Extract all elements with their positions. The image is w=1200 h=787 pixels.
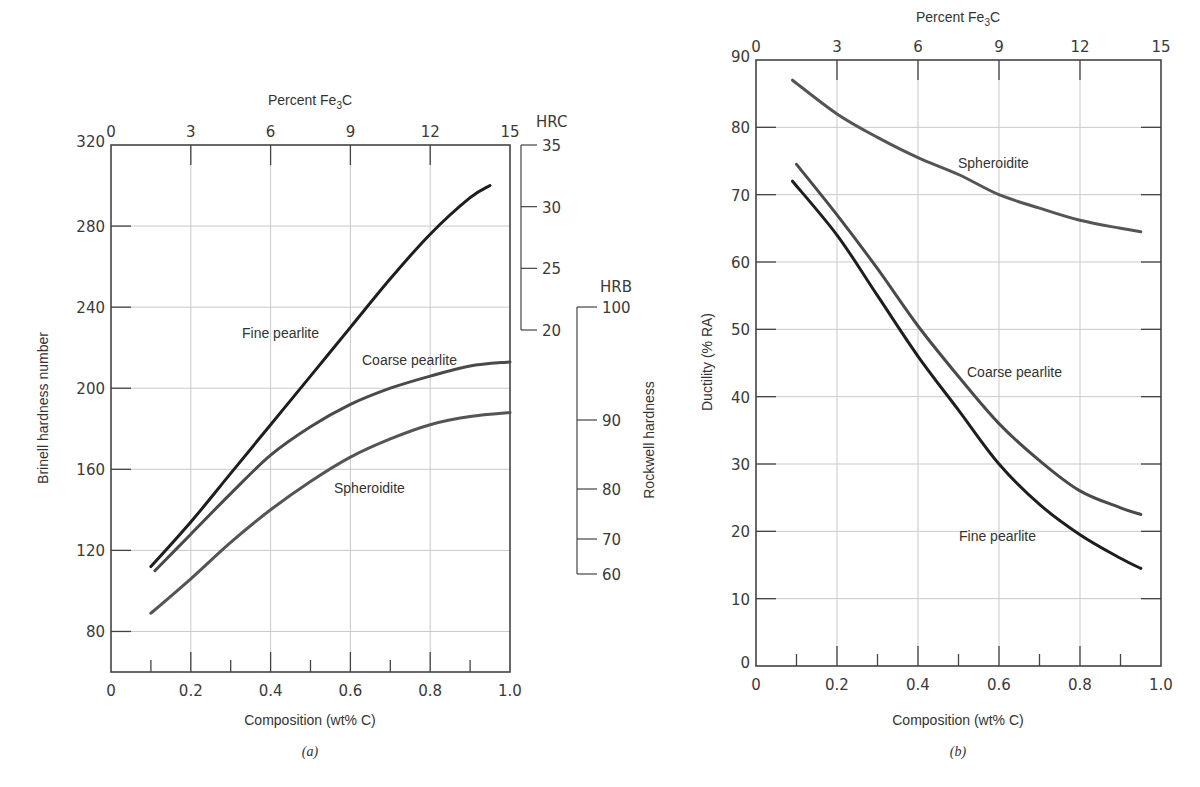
chart-a-top-axis-title: Percent Fe3C [268, 92, 352, 111]
hrb-axis: 10090807060 HRB Rockwell hardness [577, 278, 657, 584]
x-tick-label: 0 [106, 682, 116, 700]
top-tick-label: 3 [186, 123, 196, 141]
hrb-axis-label: HRB [600, 278, 632, 296]
y-tick-label: 20 [731, 523, 750, 541]
chart-b-label-fine-pearlite: Fine pearlite [959, 528, 1036, 544]
hrb-tick-label: 60 [602, 566, 621, 584]
top-tick-label: 9 [346, 123, 356, 141]
hrb-tick-label: 70 [602, 531, 621, 549]
chart-a-label-coarse-pearlite: Coarse pearlite [362, 352, 457, 368]
chart-b-top-axis-title: Percent Fe3C [916, 9, 1000, 28]
figure: 80120160200240280320 00.20.40.60.81.0 03… [0, 0, 1200, 787]
x-tick-label: 1.0 [498, 682, 522, 700]
y-tick-label: 120 [76, 542, 105, 560]
y-tick-label: 80 [86, 623, 105, 641]
chart-b-y-axis-title: Ductility (% RA) [699, 313, 715, 411]
top-tick-label: 0 [106, 123, 116, 141]
chart-a-label-fine-pearlite: Fine pearlite [242, 325, 319, 341]
chart-a-series [151, 186, 510, 614]
hrb-tick-label: 90 [602, 412, 621, 430]
x-tick-label: 0.6 [987, 676, 1011, 694]
chart-b-x-axis-title: Composition (wt% C) [892, 712, 1023, 728]
top-tick-label: 9 [994, 38, 1004, 56]
chart-a-plot-frame [111, 145, 510, 672]
x-tick-label: 0.4 [906, 676, 930, 694]
chart-a-top-tick-labels: 03691215 [106, 123, 519, 141]
y-tick-label: 60 [731, 254, 750, 272]
x-tick-label: 0.6 [338, 682, 362, 700]
y-tick-label: 70 [731, 187, 750, 205]
top-tick-label: 12 [421, 123, 440, 141]
x-tick-label: 0.8 [418, 682, 442, 700]
hrb-tick-label: 80 [602, 481, 621, 499]
chart-a-x-axis-title: Composition (wt% C) [244, 712, 375, 728]
x-tick-label: 0.8 [1068, 676, 1092, 694]
chart-b-y-tick-labels: 0102030405060708090 [731, 48, 750, 672]
y-tick-label: 90 [731, 48, 750, 66]
y-tick-label: 280 [76, 218, 105, 236]
y-tick-label: 30 [731, 456, 750, 474]
chart-b-caption: (b) [950, 744, 967, 760]
chart-a-y-axis-title: Brinell hardness number [35, 332, 51, 484]
y-tick-label: 50 [731, 321, 750, 339]
chart-a-gridlines [111, 145, 510, 672]
top-tick-label: 15 [1151, 38, 1170, 56]
top-tick-label: 0 [751, 38, 761, 56]
chart-b-label-spheroidite: Spheroidite [958, 155, 1029, 171]
chart-b-gridlines [756, 60, 1161, 666]
y-tick-label: 10 [731, 591, 750, 609]
y-tick-label: 200 [76, 380, 105, 398]
hrc-axis: 35302520 HRC [521, 113, 567, 340]
x-tick-label: 0.4 [259, 682, 283, 700]
y-tick-label: 0 [740, 654, 750, 672]
chart-b-plot-frame [756, 60, 1161, 666]
chart-a-y-tick-labels: 80120160200240280320 [76, 133, 105, 641]
y-tick-label: 320 [76, 133, 105, 151]
x-tick-label: 0.2 [179, 682, 203, 700]
chart-a: 80120160200240280320 00.20.40.60.81.0 03… [35, 92, 657, 760]
chart-a-x-tick-labels: 00.20.40.60.81.0 [106, 682, 522, 700]
y-tick-label: 240 [76, 299, 105, 317]
chart-a-caption: (a) [302, 744, 319, 760]
y-tick-label: 160 [76, 461, 105, 479]
y-tick-label: 40 [731, 389, 750, 407]
chart-a-label-spheroidite: Spheroidite [334, 480, 405, 496]
hrb-tick-label: 100 [602, 299, 631, 317]
hrc-tick-label: 25 [542, 260, 561, 278]
x-tick-label: 0.2 [825, 676, 849, 694]
top-tick-label: 6 [913, 38, 923, 56]
series-fine-pearlite [151, 186, 490, 567]
top-tick-label: 6 [266, 123, 276, 141]
y-tick-label: 80 [731, 119, 750, 137]
rockwell-axis-title: Rockwell hardness [641, 381, 657, 499]
hrc-axis-label: HRC [536, 113, 567, 131]
hrc-tick-label: 35 [542, 137, 561, 155]
chart-b-top-tick-labels: 03691215 [751, 38, 1170, 56]
series-spheroidite [151, 413, 510, 614]
top-tick-label: 3 [832, 38, 842, 56]
hrc-tick-label: 30 [542, 199, 561, 217]
chart-b-label-coarse-pearlite: Coarse pearlite [967, 364, 1062, 380]
chart-b-series [793, 80, 1141, 568]
hrc-tick-label: 20 [542, 322, 561, 340]
chart-a-ticks [111, 145, 470, 672]
chart-b: 0102030405060708090 00.20.40.60.81.0 036… [699, 9, 1173, 760]
x-tick-label: 1.0 [1149, 676, 1173, 694]
series-coarse-pearlite [797, 164, 1141, 514]
x-tick-label: 0 [751, 676, 761, 694]
chart-b-ticks [756, 60, 1161, 666]
top-tick-label: 15 [500, 123, 519, 141]
top-tick-label: 12 [1070, 38, 1089, 56]
chart-b-x-tick-labels: 00.20.40.60.81.0 [751, 676, 1173, 694]
